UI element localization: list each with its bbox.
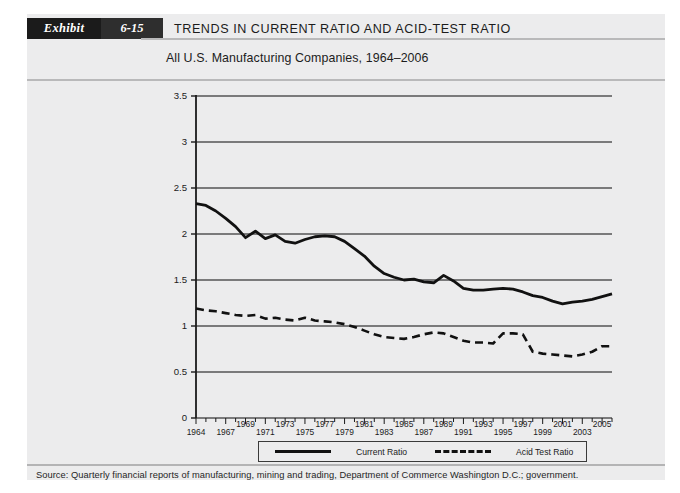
chart-legend: Current Ratio Acid Test Ratio <box>258 441 587 462</box>
y-axis-tick-label: 3.5 <box>174 90 187 101</box>
legend-swatch-current-ratio <box>275 450 331 453</box>
source-divider <box>27 464 665 466</box>
x-axis-tick-label: 1975 <box>296 427 315 437</box>
exhibit-page: Exhibit 6-15 TRENDS IN CURRENT RATIO AND… <box>0 0 680 493</box>
y-axis-tick-label: 1.5 <box>174 274 187 285</box>
x-axis-tick-label: 1981 <box>355 419 374 429</box>
x-axis-tick-label: 2003 <box>573 427 592 437</box>
page-title: TRENDS IN CURRENT RATIO AND ACID-TEST RA… <box>174 18 511 39</box>
header-divider <box>141 38 665 40</box>
x-axis-tick-label: 2005 <box>593 419 612 429</box>
x-axis-tick-label: 2001 <box>553 419 572 429</box>
x-axis-tick-label: 1999 <box>533 427 552 437</box>
x-axis-tick-label: 1987 <box>414 427 433 437</box>
exhibit-number: 6-15 <box>101 18 163 39</box>
y-axis-tick-label: 2 <box>182 228 187 239</box>
x-axis-tick-label: 1964 <box>187 427 206 437</box>
line-chart: 00.511.522.533.5196419671969197119731975… <box>27 82 665 442</box>
y-axis-tick-label: 3 <box>182 136 187 147</box>
chart-subtitle: All U.S. Manufacturing Companies, 1964–2… <box>166 51 429 65</box>
x-axis-tick-label: 1977 <box>315 419 334 429</box>
exhibit-label: Exhibit <box>27 18 101 39</box>
x-axis-tick-label: 1991 <box>454 427 473 437</box>
legend-label-current-ratio: Current Ratio <box>356 447 407 457</box>
legend-label-acid-test-ratio: Acid Test Ratio <box>516 447 573 457</box>
y-axis-tick-label: 0.5 <box>174 366 187 377</box>
source-note: Source: Quarterly financial reports of m… <box>36 470 578 480</box>
x-axis-tick-label: 1995 <box>494 427 513 437</box>
x-axis-tick-label: 1989 <box>434 419 453 429</box>
series-line-current-ratio <box>196 204 612 304</box>
exhibit-header: Exhibit 6-15 TRENDS IN CURRENT RATIO AND… <box>27 18 665 39</box>
x-axis-tick-label: 1985 <box>395 419 414 429</box>
x-axis-tick-label: 1997 <box>514 419 533 429</box>
x-axis-tick-label: 1983 <box>375 427 394 437</box>
x-axis-tick-label: 1967 <box>216 427 235 437</box>
y-axis-tick-label: 0 <box>182 412 187 423</box>
chart-container: 00.511.522.533.5196419671969197119731975… <box>27 82 665 442</box>
y-axis-tick-label: 2.5 <box>174 182 187 193</box>
series-line-acid-test-ratio <box>196 309 612 357</box>
legend-swatch-acid-test-ratio <box>435 450 491 453</box>
y-axis-tick-label: 1 <box>182 320 187 331</box>
subtitle-divider <box>27 79 665 81</box>
x-axis-tick-label: 1969 <box>236 419 255 429</box>
x-axis-tick-label: 1979 <box>335 427 354 437</box>
x-axis-tick-label: 1993 <box>474 419 493 429</box>
x-axis-tick-label: 1971 <box>256 427 275 437</box>
x-axis-tick-label: 1973 <box>276 419 295 429</box>
